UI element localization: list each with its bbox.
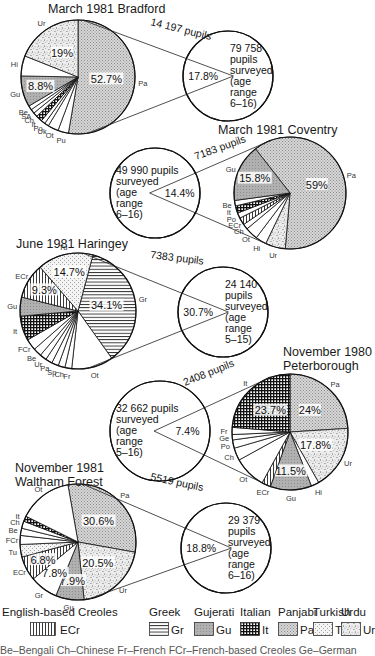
slice-label-tu: Tu <box>9 548 17 557</box>
percent-label-pa: 24% <box>299 404 321 416</box>
pupil-count-label: 2408 pupils <box>181 357 235 388</box>
legend-name: English-based Creoles <box>2 606 118 618</box>
legend-swatch-pa-icon <box>278 622 298 636</box>
chart-title-peterborough: November 1980Peterborough <box>283 345 372 373</box>
legend-name: Italian <box>240 606 271 618</box>
percent-label-gu: 15.8% <box>239 172 270 184</box>
slice-label-be: Be <box>8 526 17 535</box>
legend-code: It <box>262 624 268 636</box>
slice-label-gu: Gu <box>286 494 296 503</box>
slice-label-gr: Gr <box>35 591 44 600</box>
slice-label-ot: Ot <box>239 475 248 484</box>
chart-title-haringey: June 1981 Haringey <box>16 237 128 251</box>
legend-code: Pa <box>300 624 314 636</box>
chart-title-bradford: March 1981 Bradford <box>48 2 165 16</box>
legend-swatch-gr-icon <box>149 622 169 636</box>
slice-label-be: Be <box>27 354 36 363</box>
chart-title-waltham-forest-text: November 1981Waltham Forest <box>15 461 104 489</box>
pie-peterborough: Pa24%Ur17.8%HiGu11.5%ECrOtChPoGeFrIt23.7… <box>219 374 352 503</box>
slice-label-it: It <box>13 327 18 336</box>
share-percent: 17.8% <box>188 70 218 82</box>
percent-label-tu: 14.7% <box>54 266 85 278</box>
abbreviation-footer: Be–Bengali Ch–Chinese Fr–French FCr–Fren… <box>0 644 357 656</box>
legend-swatch-ecr-icon <box>30 622 56 636</box>
percent-label-gu: 11.5% <box>275 465 306 477</box>
slice-label-pa: Pa <box>138 79 148 88</box>
slice-label-ecr: ECr <box>13 568 26 577</box>
surveyed-text-line: 5–15) <box>225 333 252 345</box>
pupil-count-label: 7383 pupils <box>150 248 205 266</box>
slice-label-it: It <box>243 379 248 388</box>
slice-label-hi: Hi <box>11 60 18 69</box>
surveyed-text-line: 6–16) <box>116 208 143 220</box>
chart-title-waltham-forest: November 1981Waltham Forest <box>15 461 104 489</box>
legend-name: Urdu <box>341 606 366 618</box>
share-percent: 18.8% <box>186 542 216 554</box>
slice-label-hi: Hi <box>253 244 260 253</box>
slice-label-gu: Gu <box>10 90 20 99</box>
slice-label-hi: Hi <box>315 488 322 497</box>
pie-waltham-forest: Pa30.6%Ur20.5%Gu7.9%Gr7.8%ECr6.8%TuFCrBe… <box>6 484 136 612</box>
slice-label-gr: Gr <box>139 295 148 304</box>
legend-swatch-tu-icon <box>313 622 333 636</box>
legend-swatch-gu-icon <box>194 622 214 636</box>
charts-layer: Pa52.7%PuOtUkPoItChSABeGu8.8%HiUr19%17.8… <box>6 15 357 612</box>
slice-label-ur: Ur <box>344 459 352 468</box>
slice-label-gu: Gu <box>7 302 17 311</box>
percent-label-pa: 59% <box>306 179 328 191</box>
legend-name: Panjabi <box>278 606 316 618</box>
slice-label-ch: Ch <box>224 453 234 462</box>
slice-label-pa: Pa <box>120 491 130 500</box>
legend-swatch-ur-icon <box>341 622 361 636</box>
surveyed-text-line: 6–16) <box>230 97 257 109</box>
percent-label-gu: 8.8% <box>28 80 53 92</box>
legend-name: Gujerati <box>194 606 234 618</box>
pie-haringey: Gr34.1%OtFrChSpPaUrBeFCrItGuECr9.3%Tu14.… <box>7 243 147 381</box>
pupil-count-label: 14 197 pupils <box>150 15 214 42</box>
surveyed-text-line: 6–16) <box>228 569 255 581</box>
slice-label-fr: Fr <box>220 427 228 436</box>
pie-bradford: Pa52.7%PuOtUkPoItChSABeGu8.8%HiUr19% <box>10 19 148 145</box>
legend-name: Greek <box>149 606 180 618</box>
legend-code: Gu <box>216 624 231 636</box>
slice-label-ur: Ur <box>38 19 46 28</box>
percent-label-ur: 17.8% <box>300 439 331 451</box>
slice-label-ecr: ECr <box>256 488 269 497</box>
slice-label-fr: Fr <box>63 372 71 381</box>
slice-label-ur: Ur <box>269 251 277 260</box>
legend-code: Ur <box>363 624 375 636</box>
slice-label-gu: Gu <box>226 165 236 174</box>
legend-code: ECr <box>60 624 80 636</box>
slice-label-pa: Pa <box>347 171 357 180</box>
slice-label-ot: Ot <box>46 131 55 140</box>
legend-code: Gr <box>171 624 184 636</box>
slice-label-pu: Pu <box>56 136 65 145</box>
slice-label-po: Po <box>221 442 230 451</box>
percent-label-ecr: 6.8% <box>30 554 55 566</box>
percent-label-ur: 19% <box>51 47 73 59</box>
percent-label-it: 23.7% <box>255 404 286 416</box>
slice-label-ot: Ot <box>91 371 100 380</box>
slice-label-fcr: FCr <box>18 345 31 354</box>
share-percent: 7.4% <box>176 425 200 437</box>
slice-label-fcr: FCr <box>6 536 19 545</box>
percent-label-ur: 20.5% <box>82 557 113 569</box>
percent-label-pa: 30.6% <box>83 515 114 527</box>
share-percent: 30.7% <box>183 306 213 318</box>
slice-label-ecr: ECr <box>15 272 28 281</box>
slice-it <box>232 374 290 432</box>
percent-label-ecr: 9.3% <box>32 284 57 296</box>
slice-label-be: Be <box>19 108 28 117</box>
slice-label-be: Be <box>222 201 231 210</box>
slice-label-pa: Pa <box>331 380 341 389</box>
chart-title-coventry: March 1981 Coventry <box>218 123 338 137</box>
surveyed-text-line: 5–16) <box>116 446 143 458</box>
share-percent: 14.4% <box>165 187 195 199</box>
legend-swatch-it-icon <box>240 622 260 636</box>
pie-coventry: Pa59%UrHiOtChECrPoItBeGu15.8% <box>222 137 356 260</box>
chart-title-peterborough-text: November 1980Peterborough <box>283 345 372 373</box>
percent-label-gr: 34.1% <box>91 299 122 311</box>
percent-label-pa: 52.7% <box>91 73 122 85</box>
